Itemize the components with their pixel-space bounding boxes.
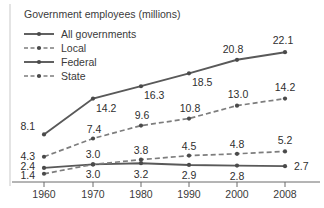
value-label-all-governments-2008: 22.1 — [273, 34, 294, 46]
value-label-federal-1970: 3.0 — [86, 168, 101, 180]
data-point-state-2000 — [235, 152, 239, 156]
data-point-local-1980 — [139, 124, 143, 128]
chart-container: 8.114.216.318.520.822.14.37.49.610.813.0… — [0, 0, 324, 208]
value-label-state-2008: 5.2 — [278, 134, 293, 146]
legend-marker-federal — [37, 60, 41, 64]
x-axis-tick-label-2008: 2008 — [273, 188, 297, 200]
value-label-federal-1980: 3.2 — [134, 168, 149, 180]
value-label-all-governments-1980: 16.3 — [144, 89, 165, 101]
x-axis-tick-label-1990: 1990 — [177, 188, 201, 200]
data-point-state-1970 — [91, 162, 95, 166]
x-axis-tick-label-2000: 2000 — [225, 188, 249, 200]
value-label-state-1960: 1.4 — [20, 169, 35, 181]
value-label-all-governments-1970: 14.2 — [96, 102, 117, 114]
value-label-federal-1990: 2.9 — [182, 169, 197, 181]
value-label-all-governments-1990: 18.5 — [192, 76, 213, 88]
data-point-local-2008 — [283, 96, 287, 100]
legend-label-state: State — [61, 70, 86, 82]
value-label-federal-2008: 2.7 — [294, 160, 309, 172]
value-label-state-2000: 4.8 — [230, 138, 245, 150]
legend-marker-local — [37, 46, 41, 50]
data-point-state-2008 — [283, 149, 287, 153]
data-point-state-1960 — [42, 172, 46, 176]
chart-title: Government employees (millions) — [24, 8, 180, 20]
value-label-local-1990: 10.8 — [180, 102, 201, 114]
data-point-federal-2000 — [235, 163, 239, 167]
value-label-all-governments-1960: 8.1 — [20, 120, 35, 132]
legend-marker-state — [37, 74, 41, 78]
value-label-state-1970: 3.0 — [86, 148, 101, 160]
data-point-all-governments-1990 — [187, 71, 191, 75]
data-point-all-governments-1970 — [91, 96, 95, 100]
value-label-local-2008: 14.2 — [275, 81, 296, 93]
data-point-all-governments-2008 — [283, 50, 287, 54]
legend-label-federal: Federal — [61, 56, 97, 68]
x-axis: 196019701980199020002008 — [12, 182, 320, 200]
value-label-state-1980: 3.8 — [134, 144, 149, 156]
data-point-all-governments-1960 — [42, 132, 46, 136]
legend-marker-all-governments — [37, 32, 41, 36]
data-point-state-1980 — [139, 158, 143, 162]
value-label-local-2000: 13.0 — [228, 88, 249, 100]
data-point-all-governments-2000 — [235, 58, 239, 62]
x-axis-tick-label-1960: 1960 — [32, 188, 56, 200]
data-point-federal-2008 — [283, 164, 287, 168]
legend-label-local: Local — [61, 42, 86, 54]
line-chart: 8.114.216.318.520.822.14.37.49.610.813.0… — [0, 0, 324, 208]
data-point-local-1990 — [187, 116, 191, 120]
data-point-all-governments-1980 — [139, 84, 143, 88]
data-point-local-1960 — [42, 155, 46, 159]
legend-label-all-governments: All governments — [61, 28, 136, 40]
value-label-federal-2000: 2.8 — [230, 170, 245, 182]
data-point-federal-1960 — [42, 166, 46, 170]
value-label-state-1990: 4.5 — [182, 140, 197, 152]
value-label-all-governments-2000: 20.8 — [223, 43, 244, 55]
x-axis-tick-label-1970: 1970 — [81, 188, 105, 200]
x-axis-tick-label-1980: 1980 — [129, 188, 153, 200]
series-line-state — [44, 151, 285, 173]
data-point-local-2000 — [235, 104, 239, 108]
data-point-state-1990 — [187, 153, 191, 157]
chart-legend: All governmentsLocalFederalState — [24, 28, 136, 82]
data-point-local-1970 — [91, 136, 95, 140]
value-label-local-1980: 9.6 — [135, 109, 150, 121]
value-label-local-1970: 7.4 — [87, 123, 102, 135]
data-point-federal-1990 — [187, 163, 191, 167]
